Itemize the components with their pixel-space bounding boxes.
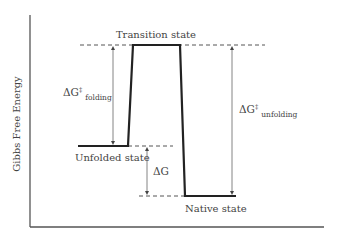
dg-folding-label: ΔG‡folding	[63, 86, 112, 102]
dg-unfolding-sup: ‡	[255, 103, 259, 111]
dg-folding-sup: ‡	[79, 86, 83, 94]
dg-unfolding-sub: unfolding	[261, 110, 297, 119]
native-state-label: Native state	[185, 203, 247, 214]
transition-state-label: Transition state	[116, 29, 196, 40]
y-axis-label: Gibbs Free Energy	[11, 76, 22, 172]
unfolded-state-label: Unfolded state	[75, 152, 150, 163]
dg-label: ΔG	[153, 165, 169, 177]
dg-folding-symbol: ΔG	[63, 86, 79, 98]
dg-unfolding-label: ΔG‡unfolding	[239, 103, 298, 119]
dg-unfolding-symbol: ΔG	[239, 103, 255, 115]
dg-folding-sub: folding	[85, 93, 112, 102]
energy-diagram: Gibbs Free Energy Transition state Unfol…	[0, 0, 337, 236]
